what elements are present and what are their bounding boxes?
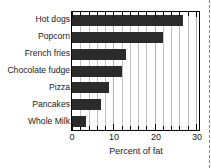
y-axis-category-labels: Hot dogs Popcorn French fries Chocolate … <box>0 12 70 130</box>
bar-pancakes <box>72 99 101 110</box>
plot-area <box>72 12 199 130</box>
tick-bottom-2 <box>80 126 81 131</box>
bar-chocolate-fudge <box>72 66 122 77</box>
y-tick-label-2: French fries <box>2 48 70 59</box>
tick-top-12 <box>122 12 123 16</box>
tick-top-0 <box>72 12 73 17</box>
tick-top-16 <box>138 12 139 16</box>
tick-top-6 <box>97 12 98 16</box>
bar-whole-milk <box>72 116 86 127</box>
x-tick-label-3: 30 <box>186 132 208 143</box>
tick-bottom-16 <box>138 126 139 131</box>
tick-top-26 <box>179 12 180 16</box>
bar-french-fries <box>72 49 126 60</box>
tick-bottom-14 <box>130 126 131 131</box>
y-tick-label-1: Popcorn <box>2 31 70 42</box>
gridline-x-20 <box>155 12 156 130</box>
x-axis-line <box>71 130 200 131</box>
tick-top-2 <box>80 12 81 16</box>
tick-top-22 <box>163 12 164 16</box>
x-axis-title: Percent of fat <box>72 146 200 156</box>
gridline-x-12 <box>122 12 123 130</box>
y-tick-label-4: Pizza <box>2 82 70 93</box>
tick-bottom-30 <box>196 124 197 131</box>
gridline-x-16 <box>138 12 139 130</box>
bar-pizza <box>72 82 109 93</box>
gridline-x-26 <box>179 12 180 130</box>
tick-bottom-4 <box>89 126 90 131</box>
y-tick-label-3: Chocolate fudge <box>2 65 70 76</box>
chart-figure: Hot dogs Popcorn French fries Chocolate … <box>0 0 211 168</box>
tick-bottom-0 <box>72 124 73 131</box>
tick-bottom-24 <box>171 126 172 131</box>
tick-bottom-22 <box>163 126 164 131</box>
bar-hot-dogs <box>72 15 183 26</box>
x-tick-label-1: 10 <box>103 132 125 143</box>
tick-top-30 <box>196 12 197 17</box>
figure-crop-edge <box>209 0 210 168</box>
tick-top-18 <box>146 12 147 16</box>
gridline-x-28 <box>188 12 189 130</box>
tick-top-4 <box>89 12 90 16</box>
tick-bottom-18 <box>146 126 147 131</box>
bar-popcorn <box>72 32 163 43</box>
gridline-x-18 <box>146 12 147 130</box>
tick-bottom-20 <box>155 124 156 131</box>
tick-bottom-26 <box>179 126 180 131</box>
tick-bottom-12 <box>122 126 123 131</box>
x-tick-label-2: 20 <box>145 132 167 143</box>
gridline-x-22 <box>163 12 164 130</box>
x-tick-label-0: 0 <box>61 132 83 143</box>
y-tick-label-0: Hot dogs <box>2 14 70 25</box>
tick-top-10 <box>113 12 114 17</box>
tick-top-20 <box>155 12 156 17</box>
tick-top-14 <box>130 12 131 16</box>
tick-bottom-6 <box>97 126 98 131</box>
tick-top-24 <box>171 12 172 16</box>
tick-bottom-8 <box>105 126 106 131</box>
y-tick-label-5: Pancakes <box>2 99 70 110</box>
tick-top-8 <box>105 12 106 16</box>
tick-top-28 <box>188 12 189 16</box>
tick-bottom-10 <box>113 124 114 131</box>
gridline-x-24 <box>171 12 172 130</box>
tick-bottom-28 <box>188 126 189 131</box>
gridline-x-30 <box>196 12 197 130</box>
y-tick-label-6: Whole Milk <box>2 116 70 127</box>
gridline-x-14 <box>130 12 131 130</box>
